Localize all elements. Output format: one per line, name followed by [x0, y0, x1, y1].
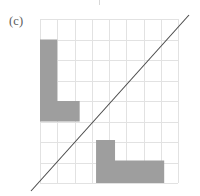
- figure-panel-c: (c): [0, 0, 200, 196]
- diagonal-line-layer: [0, 0, 200, 196]
- mirror-axis: [31, 15, 189, 191]
- mirror-axis-line: [0, 0, 200, 196]
